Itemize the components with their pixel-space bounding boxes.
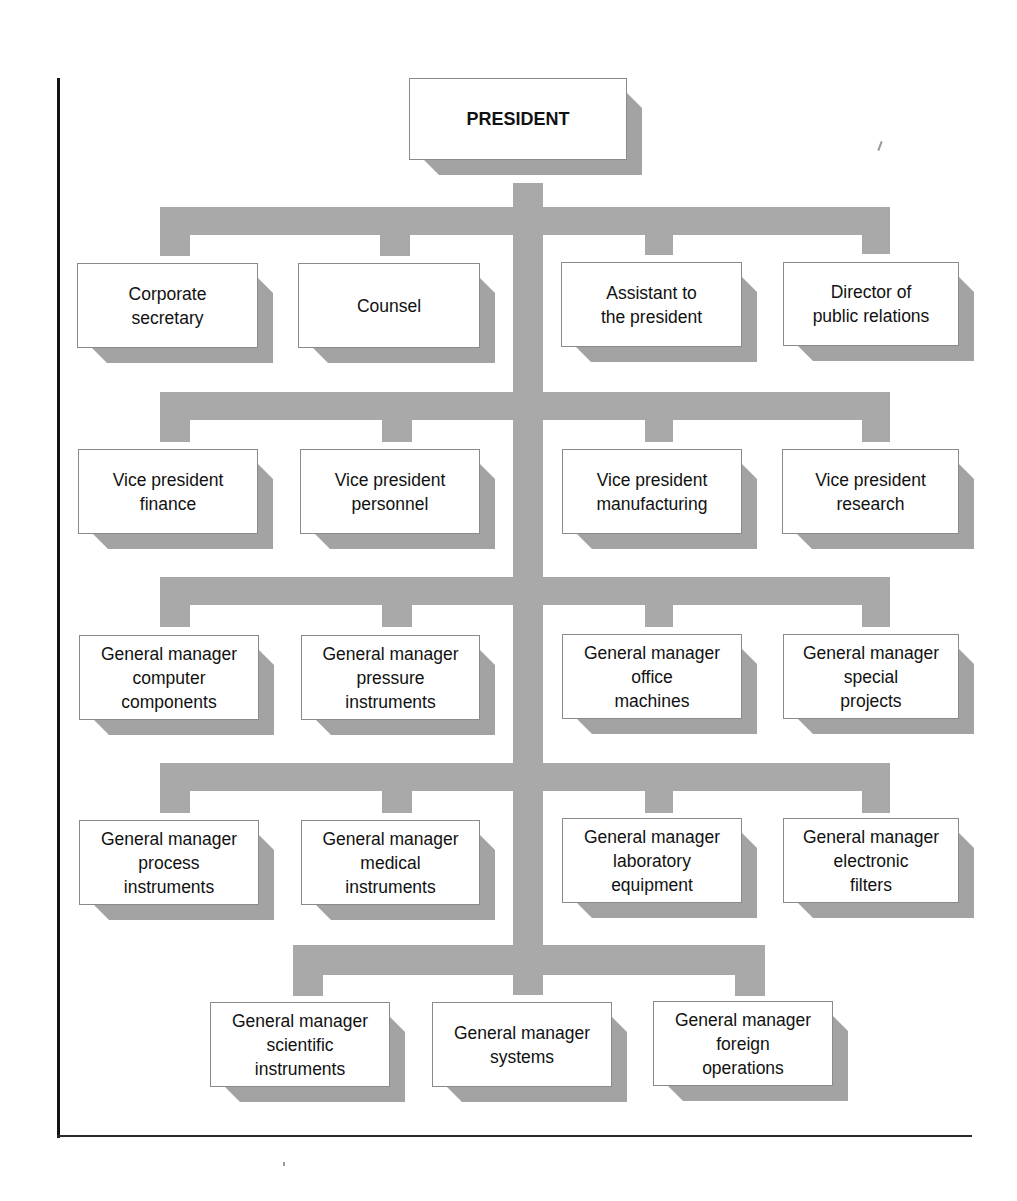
box-label: General manager process instruments — [79, 820, 259, 905]
row2-drop — [382, 392, 412, 442]
row3-drop — [382, 577, 412, 627]
gm-medical-instruments-box: General manager medical instruments — [301, 820, 480, 905]
row3-connector-bar — [160, 577, 890, 605]
gm-office-machines-box: General manager office machines — [562, 634, 742, 719]
row1-connector-bar — [160, 207, 890, 235]
vp-personnel-box: Vice president personnel — [300, 449, 480, 534]
row4-connector-bar — [160, 763, 890, 791]
stray-dot — [283, 1162, 285, 1166]
box-label: General manager office machines — [562, 634, 742, 719]
gm-special-projects-box: General manager special projects — [783, 634, 959, 719]
box-label: Corporate secretary — [77, 263, 258, 348]
row1-drop — [160, 207, 190, 256]
row2-drop — [645, 392, 673, 442]
row3-drop — [645, 577, 673, 627]
row4-drop — [862, 763, 890, 813]
box-label: Vice president research — [782, 449, 959, 534]
row4-drop — [645, 763, 673, 813]
frame-left-rule — [57, 78, 60, 1138]
box-label: General manager laboratory equipment — [562, 818, 742, 903]
row5-drop — [293, 945, 323, 996]
row5-connector-bar — [293, 945, 765, 975]
counsel-box: Counsel — [298, 263, 480, 348]
president-box: PRESIDENT — [409, 78, 627, 160]
row3-drop — [160, 577, 190, 627]
row1-drop — [380, 207, 410, 256]
row2-drop — [160, 392, 190, 442]
box-label: Assistant to the president — [561, 262, 742, 347]
vp-finance-box: Vice president finance — [78, 449, 258, 534]
gm-process-instruments-box: General manager process instruments — [79, 820, 259, 905]
box-label: General manager medical instruments — [301, 820, 480, 905]
box-label: Counsel — [298, 263, 480, 348]
row4-drop — [382, 763, 412, 813]
frame-bottom-rule — [57, 1135, 972, 1137]
box-label: Director of public relations — [783, 262, 959, 346]
box-label: General manager foreign operations — [653, 1001, 833, 1086]
box-label: General manager computer components — [79, 635, 259, 720]
box-label: General manager pressure instruments — [301, 635, 480, 720]
box-label: Vice president manufacturing — [562, 449, 742, 534]
gm-systems-box: General manager systems — [432, 1002, 612, 1087]
box-label: General manager electronic filters — [783, 818, 959, 903]
gm-scientific-instruments-box: General manager scientific instruments — [210, 1002, 390, 1087]
gm-electronic-filters-box: General manager electronic filters — [783, 818, 959, 903]
assistant-to-president-box: Assistant to the president — [561, 262, 742, 347]
row1-drop — [862, 207, 890, 254]
gm-computer-components-box: General manager computer components — [79, 635, 259, 720]
corporate-secretary-box: Corporate secretary — [77, 263, 258, 348]
row5-drop — [735, 945, 765, 996]
row2-drop — [862, 392, 890, 442]
box-label: General manager scientific instruments — [210, 1002, 390, 1087]
vp-manufacturing-box: Vice president manufacturing — [562, 449, 742, 534]
row1-drop — [645, 207, 673, 255]
stray-mark — [877, 141, 882, 151]
gm-pressure-instruments-box: General manager pressure instruments — [301, 635, 480, 720]
box-label: PRESIDENT — [409, 78, 627, 160]
row4-drop — [160, 763, 190, 813]
gm-laboratory-equipment-box: General manager laboratory equipment — [562, 818, 742, 903]
box-label: Vice president personnel — [300, 449, 480, 534]
row3-drop — [862, 577, 890, 627]
director-public-relations-box: Director of public relations — [783, 262, 959, 346]
box-label: General manager special projects — [783, 634, 959, 719]
gm-foreign-operations-box: General manager foreign operations — [653, 1001, 833, 1086]
box-label: General manager systems — [432, 1002, 612, 1087]
row2-connector-bar — [160, 392, 890, 420]
box-label: Vice president finance — [78, 449, 258, 534]
vp-research-box: Vice president research — [782, 449, 959, 534]
